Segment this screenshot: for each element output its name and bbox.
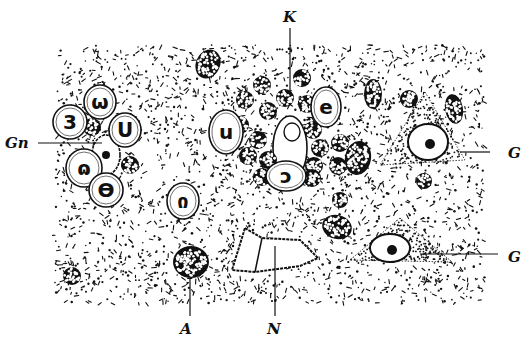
label-G1: G	[508, 144, 521, 162]
label-N: N	[266, 320, 282, 338]
capillary-nucleus	[284, 123, 300, 141]
nucleolus	[387, 245, 397, 255]
oval-nucleus	[364, 79, 382, 109]
label-A: A	[178, 320, 192, 338]
label-K: K	[282, 8, 297, 26]
lobed-nucleus: Ɵ	[97, 178, 114, 202]
histology-figure: ω3ᑌɷƟueɔი KGnGGAN	[0, 0, 527, 342]
lobed-nucleus: ᑌ	[117, 118, 133, 142]
oval-nucleus	[443, 93, 466, 126]
nucleolus	[425, 139, 435, 149]
lobed-nucleus: ɷ	[77, 156, 91, 180]
label-Gn: Gn	[5, 134, 29, 152]
lobed-nucleus: 3	[63, 110, 77, 134]
oval-nucleus	[173, 246, 209, 278]
cell-layer: ω3ᑌɷƟueɔი	[53, 45, 465, 285]
lobed-nucleus: ɔ	[280, 164, 292, 188]
lobed-nucleus: ი	[177, 189, 188, 213]
ganglion-cell	[350, 218, 452, 262]
lobed-nucleus: e	[319, 95, 333, 119]
label-G2: G	[508, 248, 521, 266]
lobed-nucleus: u	[219, 120, 233, 144]
lobed-nucleus: ω	[91, 90, 108, 114]
